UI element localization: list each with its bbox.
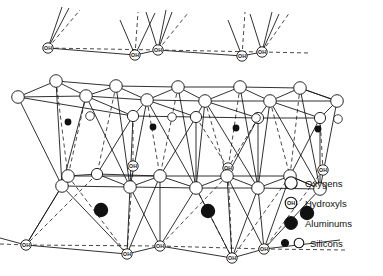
oxygen-node [141,94,154,107]
legend-label-hydroxyls: Hydroxyls [305,198,347,209]
oxygen-node [124,181,137,194]
hydroxyl-label: OH [123,251,131,257]
silicon-node [65,119,72,126]
oxygen-node [252,182,265,195]
hydroxyl-label: OH [154,47,162,53]
oxygen-node [91,168,102,179]
oxygen-node [80,90,93,103]
hydroxyl-node: OH [122,249,132,259]
oxygen-node [62,170,75,183]
hydroxyl-label: OH [319,167,327,173]
oxygen-node [264,95,277,108]
hydroxyl-node: OH [153,45,163,55]
hydroxyl-node: OH [43,43,53,53]
oxygen-node [127,110,138,121]
hydroxyl-label: OH [228,255,236,261]
silicon-node [315,126,322,133]
legend-item-silicons: Silicons [281,238,343,249]
silicon-open-node [168,113,177,122]
crystal-structure-figure: OH OH OH OH OH [0,0,383,276]
hydroxyl-label: OH [131,52,139,58]
silicon-node [233,125,240,132]
legend-item-aluminums: Aluminums [285,217,353,230]
legend-item-oxygens: Oxygens [285,177,343,189]
hydroxyl-label: OH [129,163,137,169]
aluminum-node [94,203,108,217]
aluminum-icon [285,217,298,230]
hydroxyl-node: OH [130,50,140,60]
oxygen-node [190,182,203,195]
hydroxyl-node: OH [155,241,165,251]
aluminum-nodes [94,203,314,220]
legend-item-hydroxyls: OH Hydroxyls [285,197,347,209]
hydroxyl-icon-label: OH [287,200,295,206]
legend-label-oxygens: Oxygens [305,178,343,189]
silicon-open-node [86,112,95,121]
hydroxyl-label: OH [238,53,246,59]
hydroxyl-node: OH [128,161,138,171]
oxygen-node [314,112,325,123]
silicon-open-icon [294,238,304,248]
hydroxyl-label: OH [260,246,268,252]
oxygen-node [50,75,63,88]
top-tetrahedra-bonds [48,7,279,56]
legend-label-aluminums: Aluminums [305,218,352,229]
hydroxyl-label: OH [156,243,164,249]
hydroxyl-node: OH [237,51,247,61]
hydroxyl-node: OH [318,165,328,175]
hydroxyl-label: OH [258,49,266,55]
oxygen-node [221,170,234,183]
oxygen-node [154,170,167,183]
oxygen-node [172,81,185,94]
hydroxyl-node: OH [257,47,267,57]
oxygen-node [331,95,344,108]
legend-label-silicons: Silicons [310,238,343,249]
hydroxyl-node: OH [21,240,31,250]
oxygen-node [234,81,247,94]
hydroxyl-nodes-top: OH OH OH OH OH [43,43,267,61]
oxygen-node [12,91,25,104]
silicon-node [150,124,157,131]
silicon-open-node [252,114,261,123]
oxygen-node [190,111,201,122]
hydroxyl-label: OH [44,45,52,51]
silicon-filled-icon [281,239,288,246]
hydroxyl-label: OH [22,242,30,248]
hydroxyl-node: OH [227,253,237,263]
oxygen-node [294,82,307,95]
hydroxyl-node: OH [259,244,269,254]
oxygen-node [199,95,212,108]
legend: Oxygens OH Hydroxyls Aluminums Silicons [281,177,352,249]
top-oh-row-dashed [48,48,310,53]
aluminum-node [201,204,215,218]
oxygen-node [110,80,123,93]
oxygen-icon [285,177,297,189]
silicon-open-node [334,115,343,124]
top-tetrahedra-dashed-bonds [48,10,290,56]
